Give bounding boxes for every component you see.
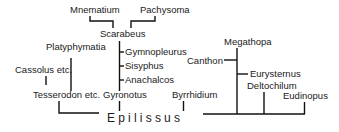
taxon-canthon: Canthon — [187, 55, 223, 66]
taxon-gyronotus: Gyronotus — [103, 89, 147, 100]
branch-mnematium — [90, 16, 113, 28]
taxon-sisyphus: Sisyphus — [125, 60, 164, 71]
taxon-mnematium: Mnematium — [70, 4, 120, 15]
taxon-platyphymatia: Platyphymatia — [46, 41, 106, 52]
branch-pachysoma — [131, 16, 155, 28]
taxon-eudinopus: Eudinopus — [283, 90, 328, 101]
branch-tesserodon — [59, 101, 99, 113]
taxon-scarabeus: Scarabeus — [100, 28, 145, 39]
taxon-pachysoma: Pachysoma — [140, 4, 190, 15]
taxon-byrrhidium: Byrrhidium — [172, 89, 217, 100]
taxon-megathopa: Megathopa — [224, 36, 272, 47]
taxon-cassolus: Cassolus etc. — [15, 64, 72, 75]
taxon-root-epilissus: Epilissus — [107, 112, 183, 125]
taxon-gymnopleurus: Gymnopleurus — [125, 46, 187, 57]
taxon-eurysternus: Eurysternus — [250, 68, 301, 79]
taxon-tesserodon: Tesserodon etc. — [33, 89, 100, 100]
taxon-anachalcos: Anachalcos — [125, 74, 174, 85]
